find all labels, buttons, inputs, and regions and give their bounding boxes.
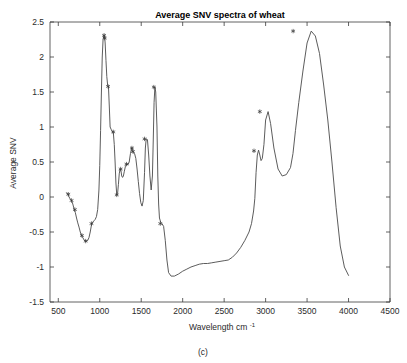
y-axis-label: Average SNV <box>8 137 18 189</box>
x-tick-label: 2500 <box>215 306 234 316</box>
x-tick-label: 3500 <box>298 306 317 316</box>
figure-caption: (c) <box>198 347 208 357</box>
x-tick-label: 4000 <box>339 306 358 316</box>
y-tick-label: 1 <box>39 122 44 132</box>
y-tick-label: 2.5 <box>32 17 44 27</box>
figure-panel: Average SNV spectra of wheat 50010001500… <box>0 0 407 363</box>
x-tick-label: 2000 <box>173 306 192 316</box>
y-tick-label: 0.5 <box>32 157 44 167</box>
x-tick-label: 4500 <box>381 306 400 316</box>
x-tick-label: 1500 <box>132 306 151 316</box>
y-tick-label: 0 <box>39 192 44 202</box>
x-tick-label: 3000 <box>256 306 275 316</box>
chart-title: Average SNV spectra of wheat <box>155 10 285 20</box>
y-tick-label: -1 <box>36 262 44 272</box>
x-tick-label: 500 <box>51 306 65 316</box>
y-tick-label: -0.5 <box>29 227 44 237</box>
y-tick-label: 2 <box>39 52 44 62</box>
x-axis-label: Wavelength cm -1 <box>189 322 256 332</box>
snv-spectra-chart: Average SNV spectra of wheat 50010001500… <box>0 0 407 363</box>
y-tick-label: 1.5 <box>32 87 44 97</box>
x-tick-label: 1000 <box>90 306 109 316</box>
y-tick-label: -1.5 <box>29 297 44 307</box>
